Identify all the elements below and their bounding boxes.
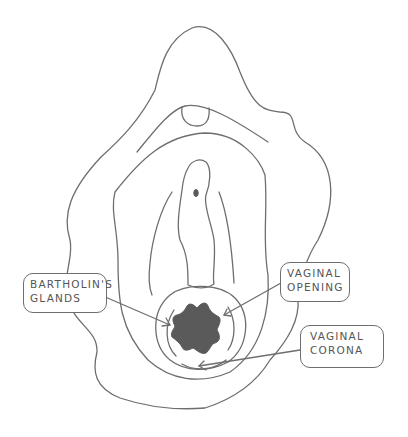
label-corona-line1: VAGINAL [310,329,377,343]
corona-arc-right [228,307,234,350]
labia-minora-right [219,192,234,283]
label-opening-line2: OPENING [287,280,343,294]
labia-minora-left [149,192,172,295]
clitoral-glans [182,107,209,126]
vaginal-opening-shape [171,303,220,353]
label-vaginal-corona: VAGINAL CORONA [300,325,384,368]
label-corona-line2: CORONA [310,343,377,357]
label-bartholins-line1: BARTHOLIN'S [30,277,100,291]
anatomy-diagram [0,0,408,437]
hood-fold [137,105,268,152]
label-vaginal-opening: VAGINAL OPENING [280,262,350,302]
vestibule-shape [178,160,214,288]
label-bartholins-glands: BARTHOLIN'S GLANDS [23,273,107,313]
pointer-opening [224,283,281,315]
urethral-dot [194,190,198,197]
label-opening-line1: VAGINAL [287,266,343,280]
label-bartholins-line2: GLANDS [30,291,100,305]
